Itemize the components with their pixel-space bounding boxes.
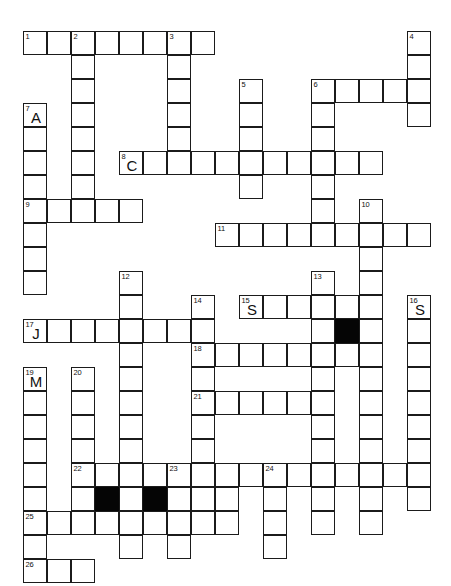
crossword-cell[interactable] — [167, 127, 191, 151]
crossword-cell[interactable] — [191, 415, 215, 439]
crossword-cell[interactable] — [119, 319, 143, 343]
crossword-cell[interactable] — [71, 511, 95, 535]
crossword-cell[interactable] — [311, 319, 335, 343]
crossword-cell[interactable] — [167, 55, 191, 79]
crossword-cell[interactable]: 21 — [191, 391, 215, 415]
crossword-cell[interactable]: 16S — [407, 295, 431, 319]
crossword-cell[interactable] — [311, 223, 335, 247]
crossword-cell[interactable]: 15S — [239, 295, 263, 319]
crossword-cell[interactable]: 22 — [71, 463, 95, 487]
crossword-cell[interactable] — [359, 271, 383, 295]
crossword-cell[interactable] — [71, 55, 95, 79]
crossword-cell[interactable] — [359, 295, 383, 319]
crossword-cell[interactable] — [23, 271, 47, 295]
crossword-cell[interactable] — [71, 319, 95, 343]
crossword-cell[interactable] — [407, 79, 431, 103]
crossword-cell[interactable] — [143, 31, 167, 55]
crossword-cell[interactable] — [335, 343, 359, 367]
crossword-cell[interactable] — [407, 439, 431, 463]
crossword-cell[interactable] — [311, 103, 335, 127]
crossword-cell[interactable] — [167, 79, 191, 103]
crossword-cell[interactable] — [215, 463, 239, 487]
crossword-cell[interactable] — [263, 223, 287, 247]
crossword-cell[interactable] — [359, 415, 383, 439]
crossword-cell[interactable] — [407, 103, 431, 127]
crossword-cell[interactable]: 10 — [359, 199, 383, 223]
crossword-cell[interactable] — [383, 223, 407, 247]
crossword-cell[interactable] — [287, 295, 311, 319]
crossword-cell[interactable] — [119, 511, 143, 535]
crossword-cell[interactable] — [311, 439, 335, 463]
crossword-cell[interactable] — [191, 151, 215, 175]
crossword-cell[interactable] — [191, 463, 215, 487]
crossword-cell[interactable] — [287, 391, 311, 415]
crossword-cell[interactable] — [71, 439, 95, 463]
crossword-cell[interactable]: 24 — [263, 463, 287, 487]
crossword-cell[interactable] — [95, 463, 119, 487]
crossword-cell[interactable] — [23, 247, 47, 271]
crossword-cell[interactable] — [263, 295, 287, 319]
crossword-cell[interactable] — [95, 31, 119, 55]
crossword-cell[interactable] — [239, 127, 263, 151]
crossword-cell[interactable] — [239, 223, 263, 247]
crossword-cell[interactable] — [167, 511, 191, 535]
crossword-cell[interactable] — [119, 343, 143, 367]
crossword-cell[interactable] — [383, 463, 407, 487]
crossword-cell[interactable] — [143, 319, 167, 343]
crossword-cell[interactable] — [95, 319, 119, 343]
crossword-cell[interactable] — [359, 319, 383, 343]
crossword-cell[interactable]: 6 — [311, 79, 335, 103]
crossword-cell[interactable] — [407, 319, 431, 343]
crossword-cell[interactable] — [167, 487, 191, 511]
crossword-cell[interactable]: 5 — [239, 79, 263, 103]
crossword-cell[interactable] — [23, 415, 47, 439]
crossword-cell[interactable] — [71, 415, 95, 439]
crossword-cell[interactable]: 9 — [23, 199, 47, 223]
crossword-cell[interactable] — [263, 343, 287, 367]
crossword-cell[interactable]: 19M — [23, 367, 47, 391]
crossword-cell[interactable]: 3 — [167, 31, 191, 55]
crossword-cell[interactable] — [71, 487, 95, 511]
crossword-cell[interactable] — [143, 151, 167, 175]
crossword-cell[interactable] — [335, 151, 359, 175]
crossword-cell[interactable]: 2 — [71, 31, 95, 55]
crossword-cell[interactable] — [71, 199, 95, 223]
crossword-cell[interactable] — [311, 415, 335, 439]
crossword-cell[interactable] — [215, 511, 239, 535]
crossword-cell[interactable] — [239, 391, 263, 415]
crossword-cell[interactable]: 26 — [23, 559, 47, 583]
crossword-cell[interactable] — [95, 199, 119, 223]
crossword-cell[interactable]: 17J — [23, 319, 47, 343]
crossword-cell[interactable] — [23, 535, 47, 559]
crossword-cell[interactable] — [407, 223, 431, 247]
crossword-cell[interactable]: 18 — [191, 343, 215, 367]
crossword-cell[interactable] — [311, 343, 335, 367]
crossword-cell[interactable] — [119, 439, 143, 463]
crossword-cell[interactable]: 11 — [215, 223, 239, 247]
crossword-cell[interactable] — [23, 175, 47, 199]
crossword-cell[interactable] — [215, 343, 239, 367]
crossword-cell[interactable] — [119, 535, 143, 559]
crossword-cell[interactable]: 7A — [23, 103, 47, 127]
crossword-cell[interactable] — [359, 367, 383, 391]
crossword-cell[interactable] — [167, 535, 191, 559]
crossword-cell[interactable]: 13 — [311, 271, 335, 295]
crossword-cell[interactable] — [359, 223, 383, 247]
crossword-cell[interactable] — [407, 55, 431, 79]
crossword-cell[interactable] — [359, 511, 383, 535]
crossword-cell[interactable] — [191, 511, 215, 535]
crossword-cell[interactable] — [239, 343, 263, 367]
crossword-cell[interactable] — [239, 463, 263, 487]
crossword-cell[interactable] — [215, 391, 239, 415]
crossword-cell[interactable] — [287, 343, 311, 367]
crossword-cell[interactable] — [335, 79, 359, 103]
crossword-cell[interactable] — [359, 247, 383, 271]
crossword-cell[interactable] — [287, 463, 311, 487]
crossword-cell[interactable] — [311, 151, 335, 175]
crossword-cell[interactable] — [287, 223, 311, 247]
crossword-cell[interactable] — [143, 511, 167, 535]
crossword-cell[interactable] — [47, 199, 71, 223]
crossword-cell[interactable] — [95, 511, 119, 535]
crossword-cell[interactable] — [71, 175, 95, 199]
crossword-cell[interactable] — [71, 103, 95, 127]
